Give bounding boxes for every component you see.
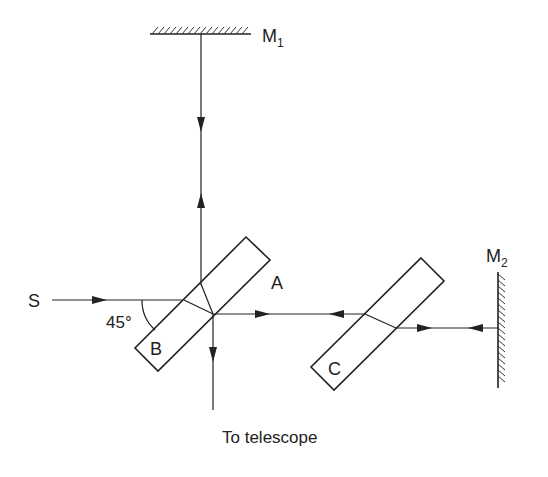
angle-label: 45°: [106, 313, 132, 332]
arrow-right-icon: [92, 296, 107, 304]
ray-inside-c: [365, 314, 396, 328]
arrow-down-icon: [197, 117, 205, 132]
arrow-right-icon: [255, 310, 270, 318]
mirror-m2: [498, 272, 505, 388]
source-label: S: [28, 291, 40, 311]
arrow-left-icon: [329, 310, 344, 318]
face-a-label: A: [271, 273, 283, 293]
mirror-m1-label: M1: [262, 26, 284, 50]
angle-arc: [142, 300, 155, 330]
arrow-down-icon: [209, 347, 217, 362]
face-b-label: B: [150, 339, 162, 359]
mirror-m1-hatching: [152, 27, 248, 34]
mirror-m1: [150, 27, 251, 34]
arrow-right-icon: [417, 324, 432, 332]
arrow-left-icon: [468, 324, 483, 332]
telescope-label: To telescope: [222, 428, 317, 447]
mirror-m2-hatching: [498, 274, 505, 382]
arrow-up-icon: [197, 193, 205, 208]
compensator-label: C: [328, 359, 341, 379]
mirror-m2-label: M2: [486, 246, 508, 270]
interferometer-diagram: M1 A B S 45° To telescope C: [0, 0, 548, 477]
